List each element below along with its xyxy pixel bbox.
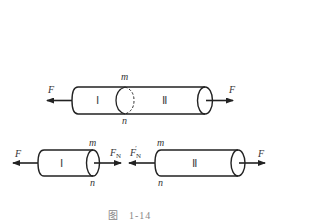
bottom-left-force-label: F xyxy=(14,148,22,159)
bottom-right-force-label: F xyxy=(257,148,265,159)
internal-force-fn-prime-label: FN′ xyxy=(129,144,141,160)
internal-force-fn-label: FN xyxy=(109,147,121,160)
bottom-left-section-n-label: n xyxy=(90,177,95,188)
section-mn-front xyxy=(116,87,125,114)
bottom-right-bar: FN′ F m n Ⅱ xyxy=(129,137,265,188)
free-body-diagram: F F m n Ⅰ Ⅱ F FN m n Ⅰ FN′ F m n Ⅱ xyxy=(0,0,322,223)
bottom-left-bar: F FN m n Ⅰ xyxy=(13,137,121,188)
bottom-right-section-m-label: m xyxy=(157,137,164,148)
top-section-m-label: m xyxy=(121,71,128,82)
top-bar-outline xyxy=(72,87,205,114)
top-right-force-label: F xyxy=(228,84,236,95)
figure-caption: 图1-14 xyxy=(108,207,161,222)
section-mn-back xyxy=(125,87,134,114)
top-part-i-label: Ⅰ xyxy=(96,94,99,106)
figure-caption-number: 1-14 xyxy=(129,210,151,221)
bottom-part-i-label: Ⅰ xyxy=(60,157,63,169)
top-part-ii-label: Ⅱ xyxy=(162,94,167,106)
bottom-left-bar-outline xyxy=(38,150,93,176)
top-bar: F F m n Ⅰ Ⅱ xyxy=(47,71,236,126)
bottom-left-section-m-label: m xyxy=(89,137,96,148)
top-left-force-label: F xyxy=(47,84,55,95)
figure-caption-prefix: 图 xyxy=(108,210,119,221)
bottom-right-section-n-label: n xyxy=(158,177,163,188)
bottom-part-ii-label: Ⅱ xyxy=(192,157,197,169)
top-section-n-label: n xyxy=(122,115,127,126)
